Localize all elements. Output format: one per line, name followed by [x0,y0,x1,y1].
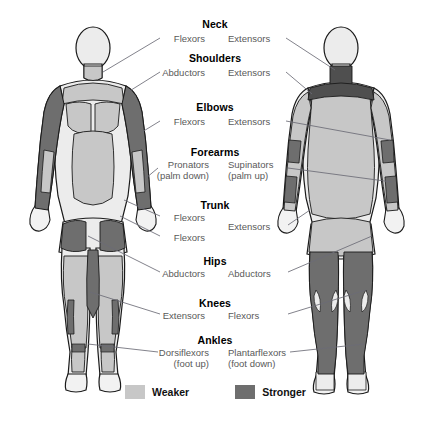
anterior-body-figure [30,27,156,392]
legend-weaker-swatch [125,385,145,399]
anterior-base-silhouette [30,27,156,392]
posterior-body-figure [278,27,404,394]
legend-stronger-swatch [235,385,255,399]
body-figures-svg [0,0,431,423]
posterior-weaker-regions [284,92,398,390]
legend-weaker: Weaker [125,385,189,399]
legend-stronger: Stronger [235,385,306,399]
legend-weaker-label: Weaker [152,386,189,398]
muscle-strength-diagram: Neck Flexors Extensors Shoulders Abducto… [0,0,431,423]
legend-stronger-label: Stronger [262,386,306,398]
legend: Weaker Stronger [0,385,431,399]
